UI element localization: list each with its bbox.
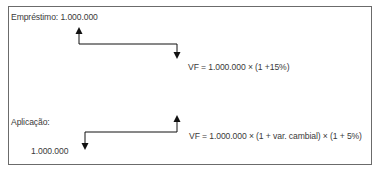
- arrow-down-icon: [174, 52, 181, 59]
- loan-flow-arrows: [79, 34, 177, 53]
- arrow-up-icon: [174, 115, 181, 122]
- arrow-up-icon: [76, 27, 83, 34]
- arrow-down-icon: [82, 143, 89, 150]
- investment-flow-arrows: [85, 122, 177, 143]
- cash-flow-arrows: [0, 0, 382, 178]
